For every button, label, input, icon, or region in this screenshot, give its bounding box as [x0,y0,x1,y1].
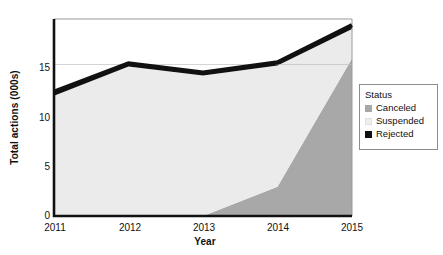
legend-item-canceled[interactable]: Canceled [365,102,437,114]
area-chart: Total actions (000s) Year 15 10 5 0 2011… [0,0,443,255]
legend-label-suspended: Suspended [376,115,424,127]
legend-swatch-suspended [365,118,372,125]
legend-item-rejected[interactable]: Rejected [365,128,437,140]
legend: Status Canceled Suspended Rejected [359,84,438,150]
legend-label-canceled: Canceled [376,102,416,114]
legend-swatch-canceled [365,105,372,112]
legend-item-suspended[interactable]: Suspended [365,115,437,127]
legend-swatch-rejected [365,131,372,138]
legend-title: Status [365,89,437,100]
legend-label-rejected: Rejected [376,128,414,140]
